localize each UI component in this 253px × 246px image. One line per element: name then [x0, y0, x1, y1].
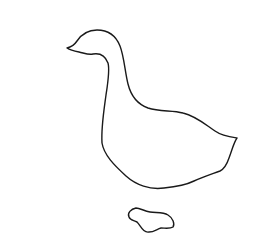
goose-body-outline — [67, 30, 237, 188]
goose-drawing — [0, 0, 253, 246]
goose-foot-outline — [128, 208, 173, 232]
drawing-canvas: goose — [0, 0, 253, 246]
